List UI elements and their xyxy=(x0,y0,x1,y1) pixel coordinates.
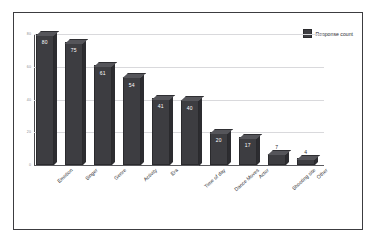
bar-value-label: 7 xyxy=(268,144,286,150)
x-axis-baseline: 0 xyxy=(34,165,324,166)
bar[interactable]: 54 xyxy=(123,77,144,165)
bar-side-face xyxy=(112,62,115,165)
x-axis-category-label: Activity xyxy=(142,167,158,182)
bar-front-face xyxy=(36,34,54,165)
bar-front-face xyxy=(94,65,112,165)
y-axis-tick-label: 0 xyxy=(29,163,31,167)
bar-side-face xyxy=(54,31,57,165)
y-axis-tick-label: 20 xyxy=(27,130,31,134)
x-axis-category-label: Time of day xyxy=(203,167,227,189)
bar-value-label: 61 xyxy=(94,70,112,76)
bar[interactable]: 61 xyxy=(94,65,115,165)
bar[interactable]: 4 xyxy=(297,158,318,165)
bar-series-response-count: 807561544140201774 xyxy=(34,34,324,165)
x-axis-category-label: Shooting site xyxy=(291,167,317,191)
bar-side-face xyxy=(141,73,144,165)
bar-front-face xyxy=(123,77,141,165)
bar[interactable]: 41 xyxy=(152,98,173,165)
x-axis-category-label: Other xyxy=(315,167,328,180)
x-axis-category-label: Singer xyxy=(84,167,99,181)
x-axis-category-label: Era xyxy=(169,167,179,177)
bar-side-face xyxy=(83,39,86,165)
chart-frame: Response count 806040200 807561544140201… xyxy=(13,12,363,230)
bar-value-label: 17 xyxy=(239,142,257,148)
bar-side-face xyxy=(228,129,231,165)
bar[interactable]: 17 xyxy=(239,137,260,165)
bar-value-label: 40 xyxy=(181,105,199,111)
bar-front-face xyxy=(65,42,83,165)
bar[interactable]: 40 xyxy=(181,100,202,166)
bar-value-label: 80 xyxy=(36,39,54,45)
x-axis-category-label: Genre xyxy=(113,167,128,181)
bar-side-face xyxy=(170,95,173,165)
bar-value-label: 20 xyxy=(210,137,228,143)
bar-side-face xyxy=(257,134,260,165)
x-axis-category-label: Dance Moves xyxy=(233,167,260,192)
bar-value-label: 75 xyxy=(65,47,83,53)
bar-side-face xyxy=(199,96,202,165)
bar-front-face xyxy=(268,154,286,165)
bar[interactable]: 7 xyxy=(268,154,289,165)
y-axis-tick-label: 40 xyxy=(27,98,31,102)
bar-value-label: 54 xyxy=(123,82,141,88)
bar-value-label: 4 xyxy=(297,149,315,155)
y-axis-tick-label: 80 xyxy=(27,32,31,36)
bar-value-label: 41 xyxy=(152,103,170,109)
x-axis-labels: EmotionSingerGenreActivityEraTime of day… xyxy=(34,167,324,227)
bar[interactable]: 80 xyxy=(36,34,57,165)
y-axis-tick-label: 60 xyxy=(27,65,31,69)
bar[interactable]: 75 xyxy=(65,42,86,165)
x-axis-category-label: Actor xyxy=(257,167,270,179)
bar[interactable]: 20 xyxy=(210,132,231,165)
x-axis-category-label: Emotion xyxy=(56,167,74,184)
plot-area: 806040200 807561544140201774 xyxy=(34,34,324,165)
